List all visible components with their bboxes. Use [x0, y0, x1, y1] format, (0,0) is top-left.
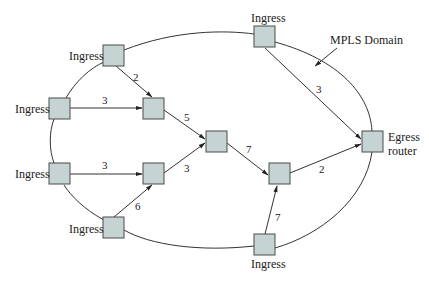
label-egress-line2: router — [388, 144, 417, 158]
mpls-domain-label: MPLS Domain — [330, 33, 403, 47]
label-ingress-bottom-left: Ingress — [69, 222, 104, 236]
weight-bottom-right-to-right-center: 7 — [275, 211, 281, 223]
weight-left-lower-to-mid-lower: 3 — [102, 159, 108, 171]
router-node-ingress-left-upper — [49, 98, 70, 119]
router-node-right-center — [269, 163, 290, 184]
mpls-domain-callout: MPLS Domain — [315, 33, 403, 66]
weight-top-right-to-egress: 3 — [316, 83, 322, 95]
weight-mid-upper-to-center: 5 — [184, 111, 190, 123]
router-node-mid-lower — [143, 163, 164, 184]
router-node-mid-upper — [143, 98, 164, 119]
label-ingress-top-right: Ingress — [251, 11, 286, 25]
weight-top-left-to-mid-upper: 2 — [133, 71, 139, 83]
router-node-egress — [362, 131, 383, 152]
router-node-center — [206, 131, 227, 152]
weight-right-center-to-egress: 2 — [319, 163, 325, 175]
label-egress-line1: Egress — [388, 130, 420, 144]
weight-center-to-right-center: 7 — [246, 143, 252, 155]
edge-top-right-to-egress — [265, 48, 361, 139]
router-node-ingress-bottom-right — [254, 234, 275, 255]
label-ingress-bottom-right: Ingress — [251, 257, 286, 271]
mpls-diagram: MPLS Domain 2 3 5 3 6 3 7 7 2 3 — [0, 0, 429, 284]
label-ingress-left-lower: Ingress — [15, 167, 50, 181]
edge-right-center-to-egress — [290, 144, 361, 173]
edge-bottom-right-to-right-center — [265, 186, 277, 234]
router-node-ingress-left-lower — [49, 163, 70, 184]
router-node-ingress-bottom-left — [103, 217, 124, 238]
router-node-ingress-top-left — [103, 45, 124, 66]
label-ingress-top-left: Ingress — [69, 49, 104, 63]
weight-left-upper-to-mid-upper: 3 — [102, 94, 108, 106]
weight-bottom-left-to-mid-lower: 6 — [135, 200, 141, 212]
weight-mid-lower-to-center: 3 — [184, 162, 190, 174]
label-ingress-left-upper: Ingress — [15, 102, 50, 116]
edge-bottom-left-to-mid-lower — [114, 185, 152, 217]
router-node-ingress-top-right — [254, 26, 275, 47]
